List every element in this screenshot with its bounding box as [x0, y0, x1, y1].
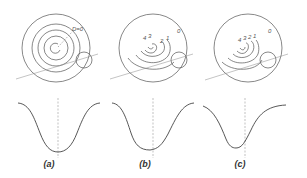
- panel-c-profile: [203, 98, 286, 158]
- ring-label-1: 1: [166, 35, 169, 41]
- panel-a-top-diagram: [16, 14, 98, 82]
- ring-label-2: 2: [247, 34, 252, 40]
- panel-b-profile: [112, 98, 194, 158]
- diagram-canvas: D=0 4 3 2 1 0: [0, 0, 307, 178]
- panel-c-top-diagram: [205, 14, 288, 82]
- panel-label-a: (a): [37, 159, 61, 169]
- ring-label-0: 0: [268, 28, 272, 34]
- panel-label-b: (b): [133, 159, 157, 169]
- ring-label-4: 4: [143, 35, 147, 41]
- ring-label-0: 0: [177, 28, 181, 34]
- ring-label-d0: D=0: [72, 26, 84, 32]
- panel-label-c: (c): [228, 159, 252, 169]
- ring-label-4: 4: [238, 37, 242, 43]
- panel-b-top-diagram: [110, 14, 193, 82]
- ring-label-1: 1: [253, 33, 256, 39]
- ring-label-3: 3: [148, 33, 152, 39]
- panel-a-profile: [18, 98, 100, 158]
- ring-label-3: 3: [243, 35, 247, 41]
- ring-label-2: 2: [159, 38, 164, 44]
- figure: D=0 4 3 2 1 0: [0, 0, 307, 178]
